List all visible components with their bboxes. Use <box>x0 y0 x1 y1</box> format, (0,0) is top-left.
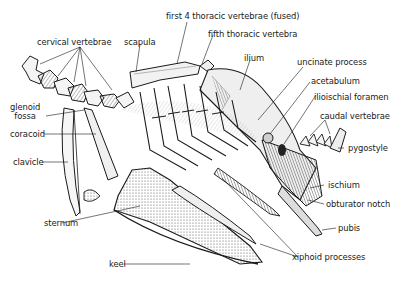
acetabulum-socket <box>263 133 273 143</box>
label-acetabulum: acetabulum <box>311 77 360 85</box>
label-coracoid: coracoid <box>10 130 45 138</box>
label-pubis: pubis <box>338 224 360 232</box>
label-glenoid-fossa: glenoid fossa <box>10 103 40 121</box>
coracoid-bone <box>84 108 118 180</box>
label-fifth-thoracic: fifth thoracic vertebra <box>208 30 297 38</box>
label-ilium: ilium <box>244 54 264 62</box>
cervical-vertebrae-bones <box>22 56 134 108</box>
caudal-vertebrae-bones <box>300 134 332 148</box>
label-keel: keel <box>109 260 126 268</box>
label-first-4-thoracic: first 4 thoracic vertebrae (fused) <box>166 12 299 20</box>
sternum-bone <box>114 168 262 264</box>
ilioischial-foramen-hole <box>278 144 286 156</box>
scapula-bone <box>130 62 200 88</box>
label-clavicle: clavicle <box>13 158 44 166</box>
bird-skeleton-diagram: cervical vertebrae scapula first 4 thora… <box>0 0 398 284</box>
label-scapula: scapula <box>124 38 155 46</box>
label-uncinate-process: uncinate process <box>297 58 367 66</box>
label-ilioischial-foramen: ilioischial foramen <box>314 93 389 101</box>
label-pygostyle: pygostyle <box>348 144 388 152</box>
pygostyle-bone <box>330 128 346 152</box>
label-xiphoid-processes: xiphoid processes <box>292 253 365 261</box>
label-cervical-vertebrae: cervical vertebrae <box>37 38 111 46</box>
label-ischium: ischium <box>328 181 360 189</box>
label-sternum: sternum <box>44 219 78 227</box>
label-obturator-notch: obturator notch <box>326 200 390 208</box>
label-caudal-vertebrae: caudal vertebrae <box>320 112 390 120</box>
xiphoid-process-2 <box>214 168 280 216</box>
